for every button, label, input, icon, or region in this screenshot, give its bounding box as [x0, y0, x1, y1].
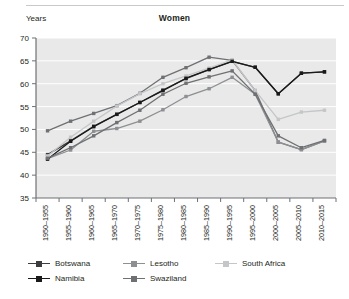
chart-legend: BotswanaLesothoSouth AfricaNamibiaSwazil… — [28, 256, 328, 286]
legend-swatch-icon — [123, 259, 145, 269]
y-axis-tick-label: 70 — [20, 34, 29, 43]
data-point-marker — [277, 134, 280, 137]
data-point-marker — [46, 129, 49, 132]
data-point-marker — [161, 89, 164, 92]
x-axis-tick-label: 1955–1960 — [64, 205, 73, 241]
data-point-marker — [323, 109, 326, 112]
legend-label: Swaziland — [150, 274, 186, 283]
x-axis-tick-label: 1990–1995 — [225, 205, 234, 241]
data-point-marker — [161, 93, 164, 96]
x-axis-tick-label: 1960–1965 — [87, 205, 96, 241]
data-point-marker — [138, 101, 141, 104]
data-point-marker — [184, 95, 187, 98]
data-point-marker — [207, 75, 210, 78]
legend-swatch-icon — [28, 274, 50, 284]
x-axis-tick-label: 1985–1990 — [202, 205, 211, 241]
data-point-marker — [277, 141, 280, 144]
legend-item-swaziland[interactable]: Swaziland — [123, 274, 215, 284]
chart-canvas: 35404550556065701950–19551955–19601960–1… — [0, 0, 349, 299]
data-point-marker — [161, 76, 164, 79]
data-point-marker — [254, 66, 257, 69]
data-point-marker — [92, 120, 95, 123]
y-axis-tick-label: 40 — [20, 171, 29, 180]
data-point-marker — [207, 68, 210, 71]
data-point-marker — [254, 89, 257, 92]
data-point-marker — [69, 136, 72, 139]
y-axis-tick-label: 50 — [20, 125, 29, 134]
x-axis-tick-label: 2005–2010 — [294, 205, 303, 241]
data-point-marker — [138, 109, 141, 112]
x-axis-tick-label: 1970–1975 — [133, 205, 142, 241]
data-point-marker — [138, 120, 141, 123]
line-chart: 35404550556065701950–19551955–19601960–1… — [0, 0, 349, 299]
data-point-marker — [323, 139, 326, 142]
y-axis-tick-label: 55 — [20, 103, 29, 112]
data-point-marker — [207, 56, 210, 59]
data-point-marker — [69, 120, 72, 123]
x-axis-tick-label: 1980–1985 — [179, 205, 188, 241]
data-point-marker — [92, 134, 95, 137]
data-point-marker — [184, 66, 187, 69]
data-point-marker — [207, 87, 210, 90]
data-point-marker — [115, 121, 118, 124]
x-axis-tick-label: 1965–1970 — [110, 205, 119, 241]
data-point-marker — [115, 113, 118, 116]
data-point-marker — [69, 146, 72, 149]
data-point-marker — [300, 72, 303, 75]
data-point-marker — [161, 108, 164, 111]
legend-label: Lesotho — [150, 259, 178, 268]
legend-item-namibia[interactable]: Namibia — [28, 274, 123, 284]
legend-label: South Africa — [242, 259, 285, 268]
data-point-marker — [138, 92, 141, 95]
data-point-marker — [92, 125, 95, 128]
legend-row: BotswanaLesothoSouth Africa — [28, 256, 328, 271]
data-point-marker — [254, 93, 257, 96]
y-axis-tick-label: 65 — [20, 57, 29, 66]
data-point-marker — [300, 110, 303, 113]
data-point-marker — [230, 76, 233, 79]
data-point-marker — [230, 69, 233, 72]
data-point-marker — [46, 157, 49, 160]
x-axis-tick-label: 1995–2000 — [248, 205, 257, 241]
legend-label: Botswana — [55, 259, 90, 268]
x-axis-tick-label: 1950–1955 — [41, 205, 50, 241]
data-point-marker — [277, 92, 280, 95]
x-axis-tick-label: 2000–2005 — [271, 205, 280, 241]
legend-item-lesotho[interactable]: Lesotho — [123, 259, 215, 269]
x-axis-tick-label: 2010–2015 — [317, 205, 326, 241]
legend-label: Namibia — [55, 274, 84, 283]
y-axis-tick-label: 60 — [20, 80, 29, 89]
data-point-marker — [300, 146, 303, 149]
legend-swatch-icon — [123, 274, 145, 284]
legend-row: NamibiaSwaziland — [28, 271, 328, 286]
data-point-marker — [323, 70, 326, 73]
legend-swatch-icon — [215, 259, 237, 269]
data-point-marker — [92, 130, 95, 133]
legend-item-south-africa[interactable]: South Africa — [215, 259, 325, 269]
data-point-marker — [230, 60, 233, 63]
legend-swatch-icon — [28, 259, 50, 269]
data-point-marker — [161, 82, 164, 85]
data-point-marker — [184, 82, 187, 85]
data-point-marker — [184, 77, 187, 80]
legend-item-botswana[interactable]: Botswana — [28, 259, 123, 269]
x-axis-tick-label: 1975–1980 — [156, 205, 165, 241]
data-point-marker — [69, 140, 72, 143]
data-point-marker — [115, 127, 118, 130]
data-point-marker — [115, 104, 118, 107]
data-point-marker — [277, 118, 280, 121]
data-point-marker — [92, 112, 95, 115]
y-axis-tick-label: 45 — [20, 148, 29, 157]
y-axis-tick-label: 35 — [20, 194, 29, 203]
